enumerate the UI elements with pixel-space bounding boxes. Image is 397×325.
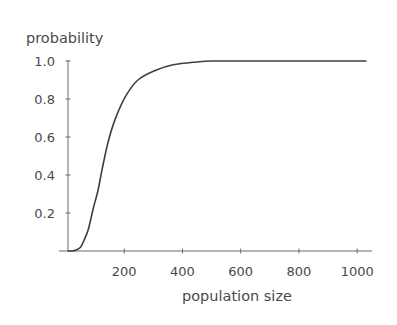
y-axis-title: probability: [26, 30, 104, 46]
probability-chart: probability 0.20.40.60.81.0 200400600800…: [0, 0, 397, 325]
y-tick-label: 0.6: [34, 130, 55, 145]
y-tick-label: 0.2: [34, 206, 55, 221]
y-tick-label: 0.8: [34, 92, 55, 107]
x-tick-label: 1000: [341, 264, 374, 279]
y-axis: 0.20.40.60.81.0: [34, 54, 70, 252]
x-axis-title: population size: [182, 288, 292, 304]
probability-curve: [68, 61, 366, 251]
y-tick-label: 1.0: [34, 54, 55, 69]
x-tick-label: 600: [228, 264, 253, 279]
x-tick-label: 800: [287, 264, 312, 279]
x-tick-label: 400: [170, 264, 195, 279]
x-tick-label: 200: [112, 264, 137, 279]
x-axis: 2004006008001000: [59, 249, 374, 280]
y-tick-label: 0.4: [34, 168, 55, 183]
